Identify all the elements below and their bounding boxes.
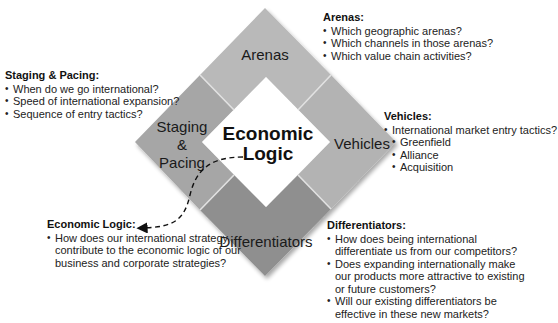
staging-item: Speed of international expansion? <box>5 95 179 108</box>
vehicles-questions: Vehicles: International market entry tac… <box>384 110 557 174</box>
arenas-title: Arenas: <box>323 11 493 24</box>
center-label-line1: Economic <box>223 123 314 144</box>
economic-logic-questions: Economic Logic: How does our internation… <box>47 218 257 269</box>
staging-item: When do we go international? <box>5 83 179 96</box>
staging-label-line1: Staging <box>157 118 208 135</box>
staging-pacing-questions: Staging & Pacing: When do we go internat… <box>5 69 179 120</box>
staging-label-line2: & <box>177 136 187 153</box>
staging-item: Sequence of entry tactics? <box>5 108 179 121</box>
differentiators-item: Will our existing differentiators be eff… <box>327 295 532 320</box>
vehicles-subitem: Greenfield <box>392 136 557 149</box>
arenas-item: Which value chain activities? <box>323 50 493 63</box>
vehicles-item: International market entry tactics? <box>384 124 557 137</box>
arenas-item: Which channels in those arenas? <box>323 37 493 50</box>
arenas-label: Arenas <box>241 46 289 63</box>
arenas-item: Which geographic arenas? <box>323 25 493 38</box>
center-label-line2: Logic <box>243 143 294 164</box>
vehicles-title: Vehicles: <box>384 110 557 123</box>
differentiators-title: Differentiators: <box>327 219 532 232</box>
vehicles-subitem: Alliance <box>392 149 557 162</box>
vehicles-label: Vehicles <box>334 135 390 152</box>
differentiators-questions: Differentiators: How does being internat… <box>327 219 532 320</box>
arenas-questions: Arenas: Which geographic arenas? Which c… <box>323 11 493 62</box>
differentiators-item: Does expanding internationally make our … <box>327 258 532 296</box>
differentiators-item: How does being international differentia… <box>327 233 532 258</box>
logic-title: Economic Logic: <box>47 218 257 231</box>
staging-label-line3: Pacing <box>159 154 205 171</box>
logic-item: How does our international strategy cont… <box>47 232 257 270</box>
vehicles-subitem: Acquisition <box>392 161 557 174</box>
staging-title: Staging & Pacing: <box>5 69 179 82</box>
